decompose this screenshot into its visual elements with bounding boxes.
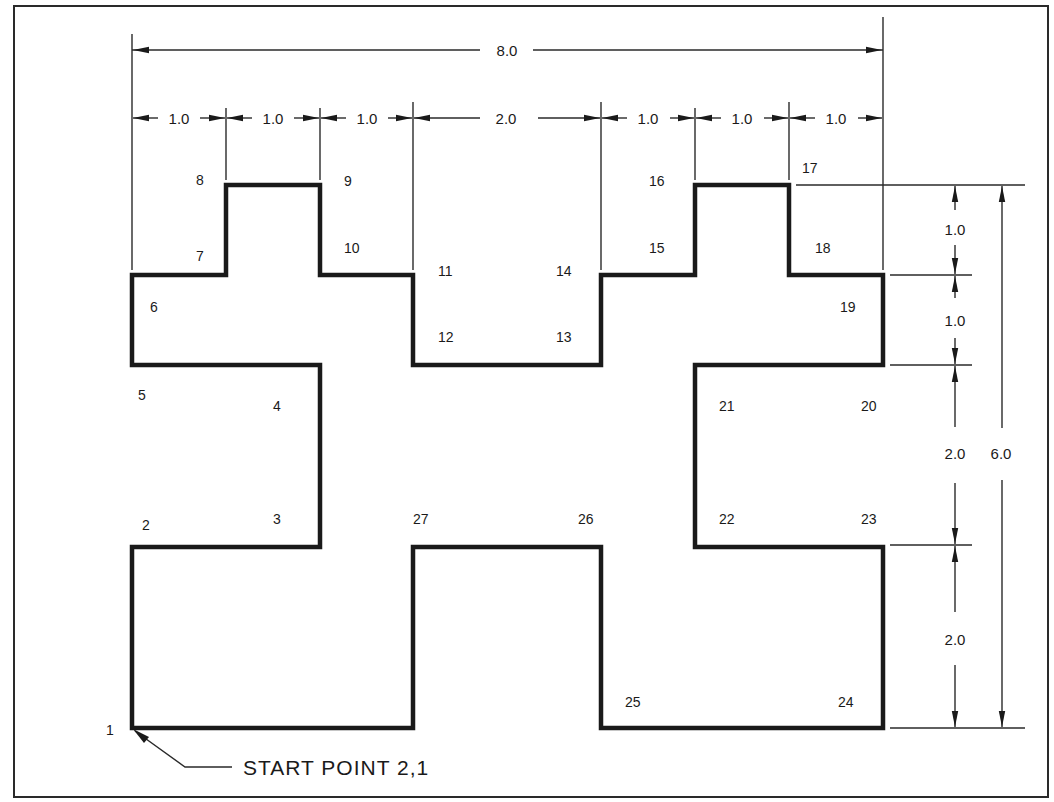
point-label-20: 20 bbox=[861, 398, 877, 414]
point-label-13: 13 bbox=[556, 329, 572, 345]
point-label-4: 4 bbox=[273, 398, 281, 414]
point-label-1: 1 bbox=[106, 722, 114, 738]
start-point-leader: START POINT 2,1 bbox=[133, 729, 429, 779]
dim-label-overall-width: 8.0 bbox=[497, 42, 518, 59]
dimension-segments-top: 1.0 1.0 1.0 2.0 1.0 1.0 1. bbox=[133, 110, 882, 127]
point-label-17: 17 bbox=[802, 160, 818, 176]
point-label-16: 16 bbox=[649, 173, 665, 189]
point-label-23: 23 bbox=[861, 511, 877, 527]
point-label-27: 27 bbox=[413, 511, 429, 527]
point-label-15: 15 bbox=[649, 240, 665, 256]
point-label-22: 22 bbox=[719, 511, 735, 527]
point-label-5: 5 bbox=[138, 387, 146, 403]
point-label-9: 9 bbox=[344, 173, 352, 189]
point-label-24: 24 bbox=[838, 694, 854, 710]
point-label-3: 3 bbox=[273, 511, 281, 527]
dimension-overall-height: 6.0 bbox=[991, 186, 1012, 727]
point-label-11: 11 bbox=[438, 263, 453, 279]
point-label-6: 6 bbox=[150, 299, 158, 315]
point-label-21: 21 bbox=[719, 398, 735, 414]
dim-label-seg-7: 1.0 bbox=[826, 110, 847, 127]
point-label-12: 12 bbox=[438, 329, 454, 345]
dim-label-seg-1: 1.0 bbox=[169, 110, 190, 127]
dim-label-seg-3: 1.0 bbox=[357, 110, 378, 127]
dim-label-vseg-2: 1.0 bbox=[945, 312, 966, 329]
dim-label-vseg-4: 2.0 bbox=[945, 631, 966, 648]
point-label-10: 10 bbox=[344, 240, 360, 256]
leader-arrow-icon bbox=[133, 729, 149, 743]
dimension-overall-width: 8.0 bbox=[132, 42, 883, 59]
start-point-note: START POINT 2,1 bbox=[243, 756, 429, 779]
point-labels: 1 2 3 4 5 6 7 8 9 10 11 12 13 14 15 16 1… bbox=[106, 160, 877, 738]
point-label-14: 14 bbox=[556, 263, 572, 279]
dim-label-overall-height: 6.0 bbox=[991, 445, 1012, 462]
dim-label-seg-5: 1.0 bbox=[638, 110, 659, 127]
dim-label-seg-4: 2.0 bbox=[496, 110, 517, 127]
dim-label-vseg-1: 1.0 bbox=[945, 221, 966, 238]
point-label-8: 8 bbox=[196, 172, 204, 188]
point-label-7: 7 bbox=[196, 248, 204, 264]
point-label-18: 18 bbox=[815, 240, 831, 256]
point-label-26: 26 bbox=[578, 511, 594, 527]
point-label-19: 19 bbox=[840, 299, 856, 315]
dim-label-vseg-3: 2.0 bbox=[945, 445, 966, 462]
dimension-segments-right: 1.0 1.0 2.0 2.0 bbox=[945, 186, 966, 727]
dim-label-seg-2: 1.0 bbox=[263, 110, 284, 127]
part-outline bbox=[132, 185, 883, 728]
dim-label-seg-6: 1.0 bbox=[732, 110, 753, 127]
technical-drawing: 8.0 1.0 1.0 1.0 2.0 1.0 bbox=[0, 0, 1054, 802]
point-label-2: 2 bbox=[142, 517, 150, 533]
point-label-25: 25 bbox=[625, 694, 641, 710]
